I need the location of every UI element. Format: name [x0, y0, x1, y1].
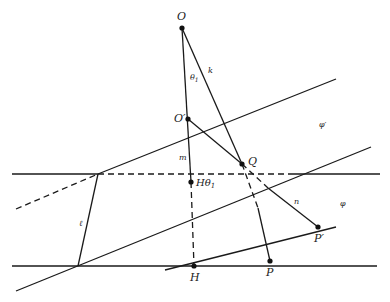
point-Q — [239, 161, 244, 166]
line-k-lower — [258, 208, 270, 261]
upper-slanted-line — [98, 79, 336, 174]
label-theta1: θ1 — [190, 73, 199, 83]
projection-diagram: O O′ Q Hθ1 H P P′ θ1 k m n ℓ φ′ φ — [0, 0, 390, 302]
line-Htheta-to-H-dashed — [191, 182, 194, 266]
label-P-prime: P′ — [313, 232, 324, 245]
label-Q: Q — [248, 155, 257, 168]
label-k: k — [208, 66, 213, 75]
label-phi-prime: φ′ — [319, 120, 327, 129]
label-P: P — [265, 266, 274, 279]
point-H — [191, 263, 196, 268]
line-n — [268, 188, 318, 227]
label-m: m — [179, 153, 187, 162]
label-H: H — [189, 271, 200, 284]
label-n: n — [294, 197, 299, 206]
lower-slanted-line — [16, 147, 371, 291]
point-P-prime — [315, 224, 320, 229]
line-Oprime-to-Q — [188, 119, 242, 164]
label-l: ℓ — [79, 219, 83, 228]
label-H-theta: Hθ1 — [195, 177, 215, 190]
label-phi: φ — [340, 199, 346, 208]
label-O: O — [177, 10, 186, 23]
line-H-P-Pprime — [165, 227, 336, 270]
label-O-prime: O′ — [174, 112, 186, 125]
upper-slanted-line-dashed — [16, 174, 98, 209]
point-O-prime — [185, 116, 190, 121]
point-H-theta — [188, 179, 193, 184]
point-P — [267, 258, 272, 263]
point-O — [179, 25, 184, 30]
line-k-upper — [182, 28, 242, 164]
